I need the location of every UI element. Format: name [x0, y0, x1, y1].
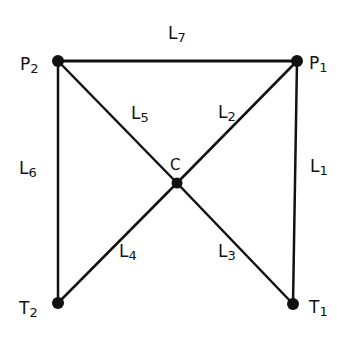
label-p2: P2 — [20, 56, 39, 73]
label-t1: T1 — [309, 299, 328, 316]
label-p1: P1 — [309, 55, 328, 72]
node-t1 — [287, 298, 299, 310]
label-l2: L2 — [218, 104, 236, 121]
label-l3: L3 — [218, 243, 236, 260]
label-l7: L7 — [168, 25, 186, 42]
node-p2 — [52, 55, 64, 67]
edge-l5 — [58, 61, 177, 183]
label-t2: T2 — [19, 300, 38, 317]
node-t2 — [52, 297, 64, 309]
node-c — [172, 178, 183, 189]
label-l5: L5 — [131, 105, 149, 122]
edge-l2 — [177, 61, 297, 183]
node-p1 — [291, 55, 303, 67]
label-l4: L4 — [119, 243, 137, 260]
label-l1: L1 — [310, 158, 328, 175]
edge-l4 — [58, 183, 177, 303]
edge-l1 — [293, 61, 297, 304]
diagram-canvas: P2 P1 T2 T1 C L7 L5 L2 L6 L1 L4 L3 — [0, 0, 349, 341]
label-c: C — [170, 158, 180, 173]
label-l6: L6 — [19, 160, 37, 177]
